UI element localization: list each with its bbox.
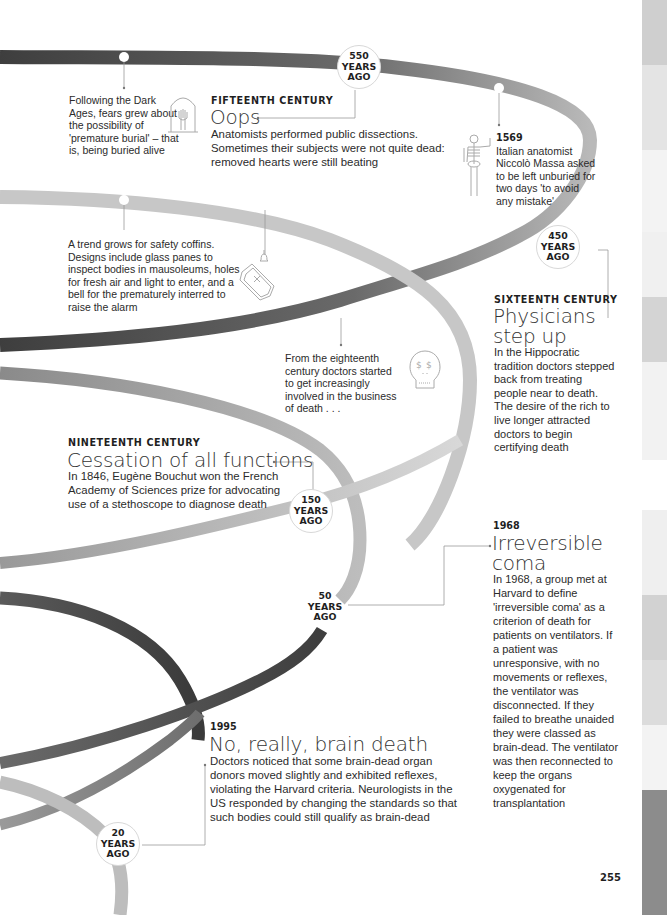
- tombstone-hand-icon: [168, 92, 198, 134]
- year-1995: 1995: [210, 721, 237, 732]
- nineteenth-century-kicker: NINETEENTH CENTURY: [68, 437, 200, 448]
- sixteenth-century-body: In the Hippocratic tradition doctors ste…: [494, 346, 618, 455]
- note-dark-ages: Following the Dark Ages, fears grew abou…: [69, 94, 184, 157]
- year-1569: 1569: [496, 132, 523, 143]
- skeleton-icon: [462, 134, 496, 200]
- irreversible-coma-headline-line2: coma: [492, 553, 546, 573]
- badge-550-years-ago: 550YEARSAGO: [337, 45, 381, 89]
- irreversible-coma-headline-line1: Irreversible: [492, 533, 603, 553]
- note-eighteenth-century: From the eighteenth century doctors star…: [285, 352, 403, 415]
- badge-50-years-ago: 50YEARSAGO: [303, 585, 347, 629]
- physicians-headline-line2: step up: [493, 326, 567, 346]
- page-number: 255: [600, 872, 621, 883]
- badge-150-years-ago: 150YEARSAGO: [289, 489, 333, 533]
- year-1968: 1968: [493, 520, 520, 531]
- nineteenth-century-body: In 1846, Eugène Bouchut won the French A…: [68, 469, 293, 511]
- svg-text:$: $: [416, 360, 422, 370]
- dollar-skull-icon: $ $: [408, 350, 442, 390]
- entry-1569-body: Italian anatomist Niccolò Massa asked to…: [496, 145, 596, 207]
- badge-450-years-ago: 450YEARSAGO: [536, 225, 580, 269]
- fifteenth-century-body: Anatomists performed public dissections.…: [211, 127, 451, 169]
- infographic-page: 550YEARSAGO 450YEARSAGO 150YEARSAGO 50YE…: [0, 0, 667, 915]
- physicians-headline-line1: Physicians: [493, 306, 595, 326]
- entry-1995-body: Doctors noticed that some brain-dead org…: [210, 754, 470, 824]
- cessation-headline: Cessation of all functions: [67, 450, 313, 470]
- svg-text:$: $: [426, 360, 432, 370]
- coffin-bell-icon: [238, 250, 282, 304]
- brain-death-headline: No, really, brain death: [209, 734, 428, 754]
- badge-20-years-ago: 20YEARSAGO: [96, 822, 140, 866]
- note-safety-coffins: A trend grows for safety coffins. Design…: [68, 238, 248, 314]
- entry-1968-body: In 1968, a group met at Harvard to defin…: [493, 572, 621, 810]
- oops-headline: Oops: [210, 107, 260, 127]
